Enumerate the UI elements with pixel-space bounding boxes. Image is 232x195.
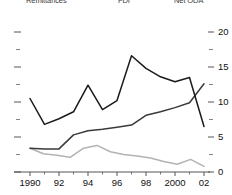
y-tick-label: 10 [218,96,229,107]
x-tick-label: 2000 [164,177,185,188]
x-axis [14,172,210,176]
y-tick-label: 0 [218,166,223,177]
y-tick-label: 5 [218,131,223,142]
y-axis-left-ticks [14,32,21,172]
y-tick-label: 20 [218,26,229,37]
chart-container: Remittances FDI Net ODA 05101520 1990929… [0,0,232,195]
series-line-remittances [30,84,204,149]
x-tick-label: 02 [199,177,210,188]
x-tick-label: 92 [54,177,65,188]
y-tick-label: 15 [218,61,229,72]
x-axis-labels: 199092949698200002 [19,177,209,188]
chart-plot: 05101520 199092949698200002 [0,0,232,195]
x-tick-label: 98 [141,177,152,188]
x-tick-label: 96 [112,177,123,188]
y-axis-right-labels: 05101520 [218,26,229,177]
x-tick-label: 1990 [19,177,40,188]
x-tick-label: 94 [83,177,94,188]
y-axis-right-ticks [208,32,214,172]
series-line-fdi [30,56,204,127]
series-lines [30,56,204,167]
